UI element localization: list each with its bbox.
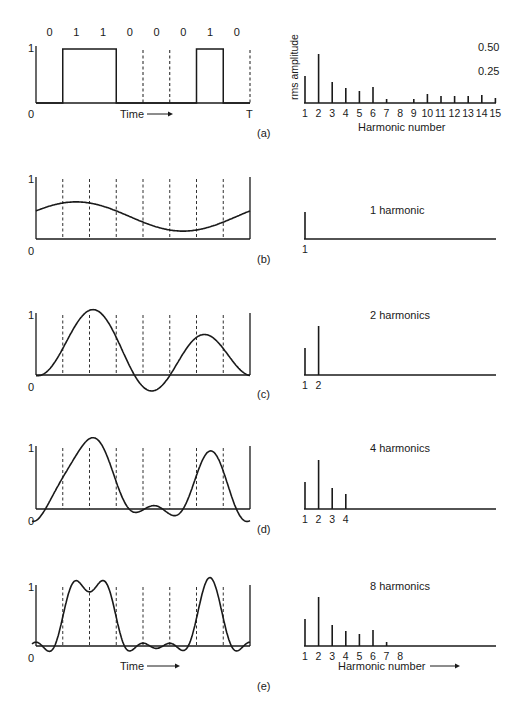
harmonic-tick: 7 [384,107,390,119]
bit-labels: 01100010 [46,26,239,38]
spectrum-4-harmonics: 4 harmonics1234 [302,442,496,525]
harmonic-tick: 3 [329,513,335,525]
harmonic-tick: 1 [302,107,308,119]
harmonic-tick: 13 [462,107,474,119]
harmonic-number-label-bottom: Harmonic number [338,660,426,672]
harmonic-panels: 10(b)1 harmonic110(c)2 harmonics1210(d)4… [28,173,496,692]
y-zero-label: 0 [28,245,34,257]
harmonic-tick: 4 [343,107,349,119]
panel-label: (e) [257,680,270,692]
harmonic-tick: 9 [411,107,417,119]
bit-label: 1 [207,26,213,38]
harmonic-tick: 11 [435,107,446,119]
y-one-label: 1 [28,581,34,593]
panel-label: (d) [257,523,270,535]
bit-label: 0 [46,26,52,38]
y-zero-label: 0 [28,381,34,393]
tick-025: 0.25 [478,65,499,77]
panel-a-spectrum: rms amplitude 0.50 0.25 1234567891011121… [288,34,501,133]
y-one-label: 1 [28,442,34,454]
y-one-label: 1 [28,309,34,321]
panel-c: 10(c)2 harmonics12 [28,309,496,400]
y-one-label: 1 [28,42,34,54]
time-arrow-bottom-icon [147,664,180,669]
harmonic-tick: 2 [316,650,322,662]
harmonic-tick: 5 [356,107,362,119]
harmonic-title: 4 harmonics [370,442,430,454]
bit-label: 0 [127,26,133,38]
y-zero-label: 0 [28,652,34,664]
spectrum-bars [305,54,495,103]
harmonic-tick: 12 [449,107,461,119]
fourier-approximation-curve [36,202,250,231]
harmonic-tick: 10 [421,107,433,119]
y-zero-label: 0 [28,108,34,120]
panel-e: 10(e)8 harmonics12345678 [28,578,496,692]
harmonic-title: 1 harmonic [370,204,425,216]
harmonic-tick: 3 [329,107,335,119]
bit-label: 0 [153,26,159,38]
harmonic-tick: 2 [316,107,322,119]
fourier-figure: 01100010 1 0 Time T (a) rms amplitude 0.… [0,0,520,713]
harmonic-tick: 3 [329,650,335,662]
bit-label: 1 [100,26,106,38]
rms-amplitude-label: rms amplitude [288,34,300,100]
panel-a-signal: 01100010 1 0 Time T (a) [28,26,270,139]
panel-label-a: (a) [257,127,270,139]
fourier-approximation-curve [32,578,250,652]
period-label: T [246,108,253,120]
harmonic-title: 8 harmonics [370,580,430,592]
harmonic-tick: 2 [316,379,322,391]
bit-label: 1 [73,26,79,38]
harmonic-tick: 8 [397,107,403,119]
harmonic-tick: 1 [302,243,308,255]
harmonic-tick: 15 [489,107,501,119]
bit-label: 0 [180,26,186,38]
harmonic-tick: 6 [370,107,376,119]
y-one-label: 1 [28,173,34,185]
time-arrow-icon [147,112,173,117]
time-label-bottom: Time [120,660,144,672]
harmonic-tick: 1 [302,379,308,391]
time-label: Time [120,108,144,120]
harmonic-tick: 2 [316,513,322,525]
panel-d: 10(d)4 harmonics1234 [28,438,496,535]
panel-label: (b) [257,253,270,265]
harmonic-number-label: Harmonic number [358,121,446,133]
harmonic-tick: 1 [302,513,308,525]
harmonic-tick: 1 [302,650,308,662]
spectrum-2-harmonics: 2 harmonics12 [302,309,496,391]
harmonic-tick: 14 [476,107,488,119]
harmonic-arrow-icon [430,664,460,669]
harmonic-tick: 4 [343,513,349,525]
harmonic-tick-labels: 123456789101112131415 [302,107,501,119]
harmonic-title: 2 harmonics [370,309,430,321]
spectrum-1-harmonics: 1 harmonic1 [302,204,496,255]
bit-label: 0 [234,26,240,38]
tick-050: 0.50 [478,41,499,53]
spectrum-8-harmonics: 8 harmonics12345678 [302,580,496,662]
panel-label: (c) [257,388,270,400]
panel-b: 10(b)1 harmonic1 [28,173,496,265]
